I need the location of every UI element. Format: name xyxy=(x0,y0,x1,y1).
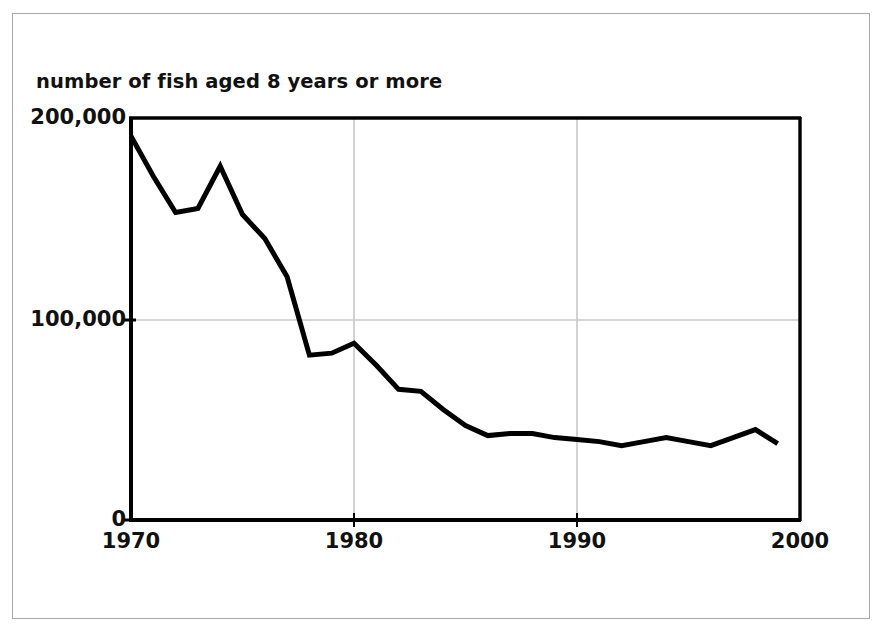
x-axis-tick-label-1990: 1990 xyxy=(523,529,631,553)
gridlines xyxy=(131,118,800,520)
y-axis-tick-label-100000: 100,000 xyxy=(30,307,126,331)
x-axis-tick-label-2000: 2000 xyxy=(746,529,854,553)
x-axis-tick-label-1970: 1970 xyxy=(77,529,185,553)
y-axis-tick-label-0: 0 xyxy=(111,507,126,531)
data-series-line xyxy=(131,136,778,446)
x-axis-tick-label-1980: 1980 xyxy=(300,529,408,553)
y-axis-tick-label-200000: 200,000 xyxy=(30,105,126,129)
figure: number of fish aged 8 years or more 200,… xyxy=(0,0,884,638)
